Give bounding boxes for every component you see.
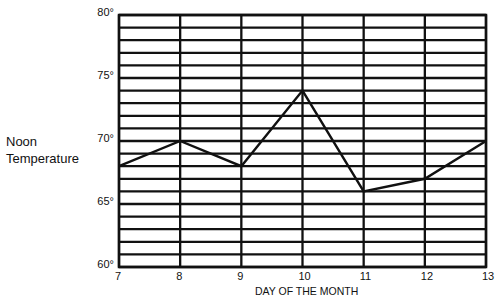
x-tick-label: 11 xyxy=(360,270,371,282)
x-tick-label: 7 xyxy=(115,270,121,282)
y-tick-label: 70° xyxy=(97,132,114,144)
x-tick-label: 9 xyxy=(237,270,243,282)
y-axis-title: Noon Temperature xyxy=(6,133,79,167)
y-axis-title-line-1: Noon xyxy=(6,133,79,150)
x-tick-label: 8 xyxy=(176,270,182,282)
x-tick-label: 10 xyxy=(299,270,311,282)
y-tick-label: 65° xyxy=(97,195,114,207)
y-tick-label: 75° xyxy=(97,69,114,81)
x-tick-label: 13 xyxy=(482,270,494,282)
x-tick-label: 12 xyxy=(421,270,433,282)
y-tick-label: 60° xyxy=(97,258,114,270)
y-axis-title-line-2: Temperature xyxy=(6,150,79,167)
x-axis-title-text: DAY OF THE MONTH xyxy=(255,285,358,297)
y-tick-label: 80° xyxy=(97,6,114,18)
